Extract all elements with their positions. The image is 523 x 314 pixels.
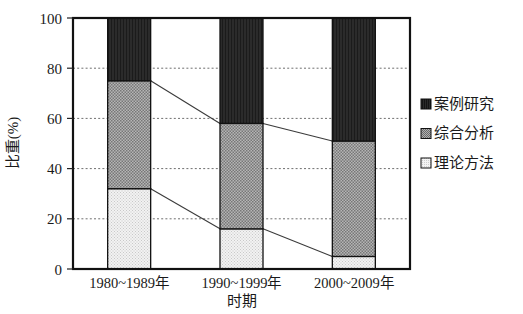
y-tick-label: 20: [47, 211, 62, 227]
y-tick-label: 100: [40, 11, 63, 27]
y-tick-label: 60: [47, 111, 62, 127]
x-tick-label: 1980~1989年: [89, 275, 169, 291]
legend-swatch: [421, 99, 431, 109]
bar-segment: [332, 18, 375, 141]
bar-segment: [220, 18, 263, 123]
bar-segment: [220, 123, 263, 228]
y-axis-tick-labels: 020406080100: [40, 11, 63, 278]
x-tick-label: 1990~1999年: [202, 275, 282, 291]
y-tick-label: 40: [47, 161, 62, 177]
connector-line: [263, 229, 332, 257]
y-tick-label: 0: [55, 262, 63, 278]
legend-swatch: [421, 158, 431, 168]
legend-swatch: [421, 129, 431, 139]
bar-segment: [108, 189, 151, 269]
x-axis-tick-labels: 1980~1989年1990~1999年2000~2009年: [89, 275, 394, 291]
y-tick-label: 80: [47, 61, 62, 77]
connector-line: [151, 189, 220, 229]
legend-label: 综合分析: [434, 125, 494, 141]
legend-item: 理论方法: [421, 155, 494, 171]
x-tick-label: 2000~2009年: [314, 275, 394, 291]
legend-item: 综合分析: [421, 125, 494, 141]
legend-label: 案例研究: [434, 95, 494, 112]
bar-segment: [108, 81, 151, 189]
chart-canvas: 020406080100 1980~1989年1990~1999年2000~20…: [0, 0, 523, 314]
bar-segment: [108, 18, 151, 81]
bar-segment: [332, 256, 375, 269]
bar-segment: [220, 229, 263, 269]
bar-group: [108, 18, 376, 269]
x-axis-title: 时期: [227, 293, 257, 309]
legend-item: 案例研究: [421, 95, 494, 112]
legend-label: 理论方法: [434, 155, 494, 171]
connector-line: [263, 123, 332, 141]
legend: 案例研究综合分析理论方法: [421, 95, 494, 171]
stacked-bar-chart: 020406080100 1980~1989年1990~1999年2000~20…: [0, 0, 523, 314]
connector-line: [151, 81, 220, 124]
bar-segment: [332, 141, 375, 256]
y-axis-title: 比重(%): [5, 117, 22, 170]
